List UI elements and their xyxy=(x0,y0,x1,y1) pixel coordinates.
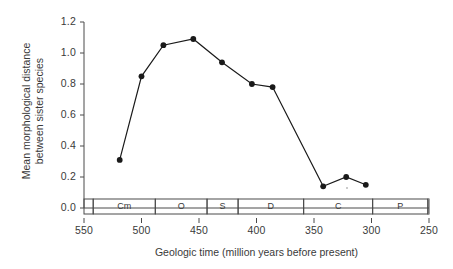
period-box-precambrian xyxy=(84,199,93,214)
data-point xyxy=(320,183,326,189)
data-series-line xyxy=(120,39,366,186)
x-tick-label: 400 xyxy=(237,224,277,236)
x-tick-label: 300 xyxy=(352,224,392,236)
period-label-S: S xyxy=(207,201,238,212)
period-label-P: P xyxy=(373,201,428,212)
data-series-markers xyxy=(117,36,369,189)
data-point xyxy=(343,174,349,180)
x-tick-label: 550 xyxy=(64,224,104,236)
chart-figure: 0.00.20.40.60.81.01.2 550500450400350300… xyxy=(0,0,453,269)
x-axis-title: Geologic time (million years before pres… xyxy=(84,246,429,258)
y-axis-title-line1: Mean morphological distance xyxy=(20,16,33,206)
data-point xyxy=(219,59,225,65)
period-label-C: C xyxy=(304,201,373,212)
period-label-O: O xyxy=(155,201,207,212)
data-point xyxy=(270,84,276,90)
data-point xyxy=(363,182,369,188)
data-point xyxy=(117,157,123,163)
y-axis-title: Mean morphological distance between sist… xyxy=(20,16,46,206)
speck-artifact xyxy=(346,187,348,189)
period-label-D: D xyxy=(238,201,304,212)
data-point xyxy=(161,42,167,48)
data-point xyxy=(190,36,196,42)
x-tick-label: 450 xyxy=(179,224,219,236)
y-axis-title-line2: between sister species xyxy=(33,16,46,206)
x-axis-ticks xyxy=(84,218,429,223)
data-point xyxy=(249,81,255,87)
period-label-Cm: Cm xyxy=(93,201,155,212)
data-point xyxy=(139,73,145,79)
x-tick-label: 500 xyxy=(122,224,162,236)
x-tick-label: 250 xyxy=(409,224,449,236)
y-axis-ticks xyxy=(80,22,84,208)
period-box-trailing xyxy=(428,199,429,214)
x-tick-label: 350 xyxy=(294,224,334,236)
